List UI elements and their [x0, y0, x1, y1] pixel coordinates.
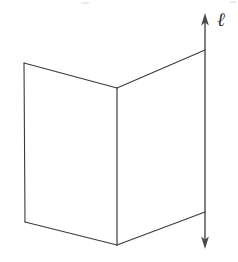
geometry-figure: ℓ	[0, 0, 238, 262]
figure-canvas: ℓ	[0, 0, 238, 262]
scan-artifact-speck	[230, 1, 236, 3]
scan-artifact-speck	[81, 2, 89, 4]
line-l-label: ℓ	[217, 8, 225, 30]
left-plane-face	[24, 63, 117, 245]
